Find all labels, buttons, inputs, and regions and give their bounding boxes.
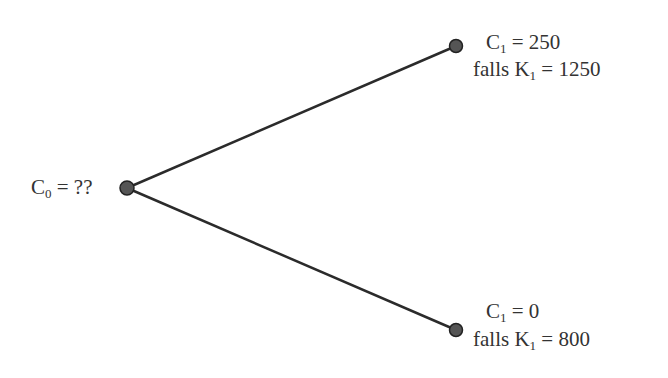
up-var: C bbox=[486, 30, 500, 54]
root-var: C bbox=[31, 175, 45, 199]
up-cond-value: = 1250 bbox=[541, 57, 600, 81]
up-branch bbox=[127, 46, 456, 188]
down-var: C bbox=[486, 299, 500, 323]
up-condition: falls K1 = 1250 bbox=[473, 57, 600, 81]
down-label: C1 = 0 bbox=[486, 299, 539, 323]
down-value: = 0 bbox=[512, 299, 540, 323]
down-cond-value: = 800 bbox=[541, 327, 590, 351]
up-label: C1 = 250 bbox=[486, 30, 560, 54]
down-branch bbox=[127, 188, 456, 330]
root-label: C0 = ?? bbox=[31, 175, 93, 199]
up-cond-prefix: falls K bbox=[473, 57, 530, 81]
down-cond-sub: 1 bbox=[530, 338, 537, 353]
down-cond-prefix: falls K bbox=[473, 327, 530, 351]
up-node bbox=[450, 40, 463, 53]
root-value: = ?? bbox=[57, 175, 93, 199]
up-value: = 250 bbox=[512, 30, 561, 54]
root-sub: 0 bbox=[45, 186, 52, 201]
up-cond-sub: 1 bbox=[530, 68, 537, 83]
down-node bbox=[450, 324, 463, 337]
down-sub: 1 bbox=[500, 310, 507, 325]
down-condition: falls K1 = 800 bbox=[473, 327, 590, 351]
root-node bbox=[120, 181, 134, 195]
up-sub: 1 bbox=[500, 41, 507, 56]
